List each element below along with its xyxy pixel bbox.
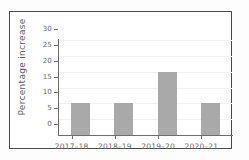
gridline <box>59 88 232 89</box>
y-axis-tick-label: 25 <box>43 41 52 49</box>
x-axis-line <box>58 135 233 136</box>
x-axis-tick <box>115 136 116 139</box>
y-axis-tick <box>54 124 58 125</box>
y-axis-tick <box>54 45 58 46</box>
y-axis-tick <box>54 92 58 93</box>
y-axis-tick-label: 5 <box>47 104 52 112</box>
y-axis-tick <box>54 108 58 109</box>
bar <box>201 103 220 135</box>
y-axis-tick <box>54 77 58 78</box>
y-axis-tick <box>54 61 58 62</box>
x-axis-tick <box>72 136 73 139</box>
x-axis-tick <box>201 136 202 139</box>
bar <box>71 103 90 135</box>
chart-figure: Percentage increase 051015202530 2017–18… <box>0 0 249 160</box>
y-axis-tick-label: 20 <box>43 57 52 65</box>
plot-area <box>59 40 232 135</box>
bar <box>158 72 177 135</box>
y-axis-tick-label: 0 <box>47 120 52 128</box>
chart-frame: Percentage increase 051015202530 2017–18… <box>9 11 232 149</box>
y-axis-tick-label: 30 <box>43 25 52 33</box>
y-axis-tick-label: 15 <box>43 73 52 81</box>
bar <box>114 103 133 135</box>
y-axis-tick-label: 10 <box>43 88 52 96</box>
gridline <box>59 40 232 41</box>
x-axis-tick-label: 2020–21 <box>176 142 226 151</box>
gridline <box>59 56 232 57</box>
y-axis-tick-labels: 051015202530 <box>34 12 52 160</box>
y-axis-title: Percentage increase <box>17 0 27 137</box>
gridline <box>59 72 232 73</box>
x-axis-tick <box>158 136 159 139</box>
y-axis-tick <box>54 29 58 30</box>
